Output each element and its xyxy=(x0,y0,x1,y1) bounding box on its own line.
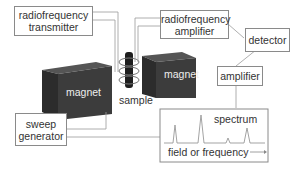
amplifier-label: amplifier xyxy=(218,70,262,82)
magnet-right-label: magnet xyxy=(164,68,199,80)
rf-amplifier-line2: amplifier xyxy=(161,25,228,37)
rf-amplifier-box: radiofrequency amplifier xyxy=(160,10,229,39)
spectrum-axis-label: field or frequency xyxy=(168,146,249,158)
rf-amplifier-line1: radiofrequency xyxy=(161,13,228,25)
spectrum-title: spectrum xyxy=(214,113,257,125)
sweep-generator-box: sweep generator xyxy=(15,113,67,146)
amplifier-box: amplifier xyxy=(217,66,263,86)
sweep-generator-line1: sweep xyxy=(16,118,66,130)
sweep-generator-line2: generator xyxy=(16,130,66,142)
magnet-left-label: magnet xyxy=(66,86,101,98)
detector-label: detector xyxy=(246,34,289,46)
detector-box: detector xyxy=(245,28,290,52)
sample-tube xyxy=(125,52,133,88)
rf-transmitter-box: radiofrequency transmitter xyxy=(14,6,93,36)
sample-label: sample xyxy=(119,94,153,106)
rf-transmitter-line2: transmitter xyxy=(15,21,92,33)
rf-transmitter-line1: radiofrequency xyxy=(15,9,92,21)
